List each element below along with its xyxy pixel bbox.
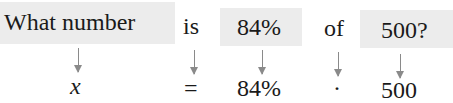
equation-multiply-dot: · [333,74,341,102]
word-what-number: What number [4,8,135,36]
arrow-down-icon [338,52,339,76]
arrow-down-icon [78,48,79,72]
word-500: 500? [381,16,428,44]
equation-500: 500 [381,76,417,103]
arrow-down-icon [262,50,263,74]
arrow-down-icon [400,54,401,78]
equation-equals: = [184,74,198,102]
word-84-percent: 84% [237,13,281,41]
word-of: of [324,14,344,42]
arrow-down-icon [194,50,195,74]
equation-84-percent: 84% [237,74,281,102]
word-is: is [183,12,199,40]
equation-variable-x: x [70,72,81,100]
